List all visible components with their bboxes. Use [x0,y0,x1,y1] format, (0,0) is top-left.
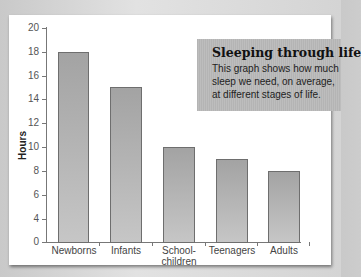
bar-teenagers [216,159,248,243]
bar-newborns [58,52,89,243]
x-label-school-children: School- children [155,245,203,267]
x-label-newborns: Newborns [50,245,98,256]
y-tick-label: 6 [33,190,39,200]
y-tick-label: 20 [28,23,39,33]
x-label-adults: Adults [262,245,306,256]
bar-adults [268,171,300,243]
y-tick-label: 10 [28,142,39,152]
x-tick [99,242,100,246]
y-axis-label: Hours [17,131,28,160]
y-tick [42,76,46,77]
y-tick [42,219,46,220]
y-tick [42,195,46,196]
y-tick-label: 14 [28,94,39,104]
info-panel: Sleeping through life This graph shows h… [197,39,341,111]
y-tick [42,52,46,53]
x-label-infants: Infants [103,245,149,256]
bar-school-children [163,147,195,243]
chart-title: Sleeping through life [212,45,361,60]
y-tick-label: 12 [28,118,39,128]
chart-description: This graph shows how much sleep we need,… [212,62,342,101]
y-tick-label: 4 [33,214,39,224]
y-axis [46,27,47,243]
y-tick [42,123,46,124]
bar-infants [110,87,142,243]
y-tick-label: 8 [33,166,39,176]
x-label-line-1: School- [155,245,203,256]
y-tick [42,99,46,100]
y-tick-label: 18 [28,47,39,57]
y-tick-label: 16 [28,71,39,81]
y-tick [42,28,46,29]
x-tick [152,242,153,246]
x-label-line-2: children [155,256,203,267]
y-tick-label: 0 [33,237,39,247]
y-tick [42,147,46,148]
y-tick [42,171,46,172]
x-tick [309,242,310,246]
x-label-teenagers: Teenagers [206,245,258,256]
